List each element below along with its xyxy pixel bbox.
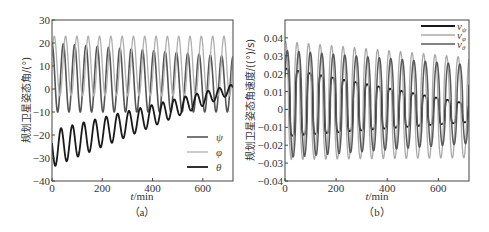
x-tick-label: 600 [430,182,447,194]
panel-b-x-axis-title: t/min [365,190,389,202]
legend-label: φ [216,146,222,158]
panel-a-chart: −40−30−20−100102030 0200400600 ψφθ 规划卫星姿… [20,14,233,218]
y-tick-label: 0.04 [264,32,284,44]
panel-b-chart: −0.04−0.03−0.02−0.0100.010.020.030.04 02… [244,20,469,218]
figure: −40−30−20−100102030 0200400600 ψφθ 规划卫星姿… [0,0,489,232]
y-tick-label: −40 [33,175,51,187]
y-tick-label: −0.04 [258,175,284,187]
x-tick-label: 0 [49,182,55,194]
y-tick-label: −0.02 [258,139,283,151]
x-tick-label: 600 [195,182,212,194]
panel-b-legend: vψvφvθ [421,20,467,52]
series-line-a-1 [52,36,233,96]
y-tick-label: −0.03 [258,157,284,169]
y-tick-label: 30 [39,14,51,26]
panel-a-x-axis-title: t/min [130,190,154,202]
legend-label: ψ [216,131,223,143]
y-tick-label: 10 [39,60,51,72]
y-tick-label: 20 [39,37,51,49]
y-tick-label: −10 [33,106,51,118]
panel-b-series [285,42,469,160]
y-tick-label: 0.01 [264,86,283,98]
panel-b-caption: （b） [363,206,391,218]
y-tick-label: 0.02 [264,68,283,80]
panel-b-y-axis: −0.04−0.03−0.02−0.0100.010.020.030.04 [258,32,288,187]
y-tick-label: 0.03 [264,50,284,62]
y-tick-label: −20 [33,129,51,141]
panel-a-legend: ψφθ [187,131,223,173]
panel-a-caption: （a） [129,206,156,218]
x-tick-label: 200 [94,182,111,194]
panel-b-y-axis-title: 规划卫星姿态角速度/((°)/s) [244,39,256,162]
y-tick-label: −0.01 [258,121,283,133]
y-tick-label: −30 [33,152,51,164]
panel-a-series [52,36,233,166]
y-tick-label: 0 [45,83,51,95]
legend-label: θ [216,161,222,173]
y-tick-label: 0 [278,103,284,115]
x-tick-label: 0 [282,182,288,194]
panel-a-y-axis-title: 规划卫星姿态角/(°) [20,57,32,143]
x-tick-label: 200 [328,182,345,194]
